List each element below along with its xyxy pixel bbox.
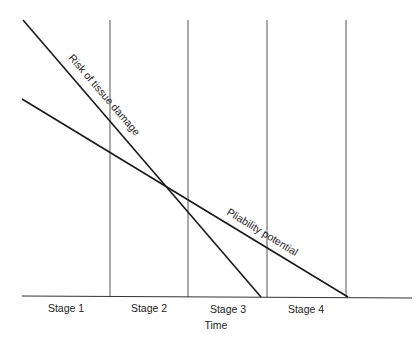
stage-label-4: Stage 4 (288, 303, 324, 315)
stage-label-1: Stage 1 (48, 302, 84, 314)
stage-diagram: Risk of tissue damage Pliability potenti… (0, 0, 415, 346)
time-axis (22, 296, 412, 298)
stage-label-2: Stage 2 (131, 302, 167, 314)
time-axis-label: Time (205, 319, 228, 331)
risk-line (23, 20, 261, 297)
stage-label-3: Stage 3 (210, 303, 246, 315)
risk-label: Risk of tissue damage (66, 51, 143, 137)
pliability-line (22, 99, 348, 297)
pliability-label: Pliability potential (225, 205, 301, 257)
